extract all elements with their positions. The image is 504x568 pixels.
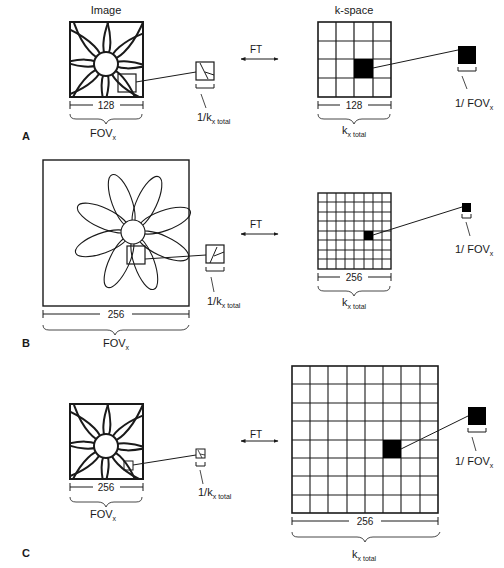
panel-c-pixel-magnified xyxy=(196,449,205,458)
panel-a-kspace-point xyxy=(354,59,373,78)
panel-b-fov-label: FOVx xyxy=(103,337,130,351)
panel-b-kspace-width: 256 xyxy=(346,272,363,283)
panel-c-kspace-point xyxy=(383,440,401,458)
panel-c-image-width: 256 xyxy=(98,482,115,493)
panel-b-kspace-magnified xyxy=(462,203,471,212)
panel-a: 1/kx total 128 FOVx A FT 1/ FOVx 128 kx … xyxy=(16,0,494,154)
panel-c-kspace-width: 256 xyxy=(357,516,374,527)
panel-c-fov-label: FOVx xyxy=(90,508,117,522)
panel-a-letter: A xyxy=(22,130,30,142)
panel-b-pixel-size-label: 1/kx total xyxy=(207,295,241,309)
panel-c-ft-label: FT xyxy=(250,429,262,440)
panel-b-kspace-point xyxy=(364,231,373,240)
panel-c-kstep-label: 1/ FOVx xyxy=(455,455,494,469)
panel-a-kspace-magnified xyxy=(458,46,476,64)
panel-b-image-width: 256 xyxy=(108,309,125,320)
panel-a-pixel-size-label: 1/kx total xyxy=(197,111,231,125)
panel-b-kstep-label: 1/ FOVx xyxy=(455,243,494,257)
panel-a-fov-label: FOVx xyxy=(90,127,117,141)
panel-c: 1/kx total 256 FOVx C FT 1/ FOVx 256 kx … xyxy=(16,356,494,562)
panel-c-pixel-size-label: 1/kx total xyxy=(198,486,232,500)
panel-b-image-flower xyxy=(72,171,193,292)
panel-c-letter: C xyxy=(22,547,30,559)
panel-c-kspace-magnified xyxy=(468,407,486,425)
panel-a-kspace-width: 128 xyxy=(346,100,363,111)
panel-a-kstep-label: 1/ FOVx xyxy=(455,97,494,111)
panel-a-image-width: 128 xyxy=(98,100,115,111)
panel-a-ktotal-label: kx total xyxy=(342,124,367,138)
kspace-domain-header: k-space xyxy=(335,4,374,16)
panel-b-ktotal-label: kx total xyxy=(342,296,367,310)
panel-b: 1/kx total 256 FOVx B FT 1/ FOVx 256 kx … xyxy=(22,160,494,351)
panel-b-letter: B xyxy=(22,337,30,349)
panel-b-ft-label: FT xyxy=(250,219,262,230)
panel-b-pixel-magnified xyxy=(206,245,224,263)
panel-c-ktotal-label: kx total xyxy=(352,548,377,562)
panel-c-kspace-grid xyxy=(292,366,438,513)
panel-a-ft-label: FT xyxy=(250,44,262,55)
fov-kspace-diagram: Image k-space 1/kx total 128 FOVx A FT xyxy=(0,0,504,568)
image-domain-header: Image xyxy=(91,4,122,16)
panel-b-kspace-grid xyxy=(318,193,391,269)
panel-a-pixel-magnified xyxy=(196,62,214,80)
